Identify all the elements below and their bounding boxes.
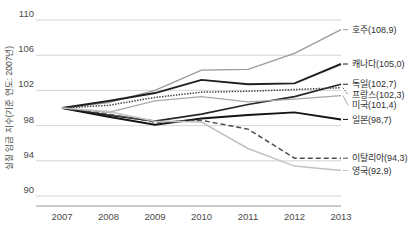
y-tick-label-94: 94 — [23, 149, 34, 160]
series-leader-프랑스 — [343, 88, 348, 95]
series-end-label-일본[interactable]: 일본(98,7) — [352, 115, 392, 125]
series-end-label-이탈리아[interactable]: 이탈리아(94,3) — [352, 153, 408, 163]
series-end-label-독일[interactable]: 독일(102,7) — [352, 79, 397, 89]
series-end-label-호주[interactable]: 호주(108,9) — [352, 25, 397, 35]
x-tick-label-2007: 2007 — [51, 211, 72, 222]
series-lines-group — [62, 30, 341, 171]
series-end-labels-group: 호주(108,9)캐나다(105,0)독일(102,7)프랑스(102,3)미국… — [343, 25, 408, 176]
series-end-label-영국[interactable]: 영국(92,9) — [352, 166, 392, 176]
y-axis-title: 실질 임금 지수(기준 연도: 2007년) — [4, 46, 14, 171]
y-tick-label-102: 102 — [18, 78, 34, 89]
x-tick-label-2009: 2009 — [144, 211, 165, 222]
real-wage-index-line-chart: 110106102989490 200720082009201020112012… — [0, 0, 412, 232]
y-axis-title-label: 실질 임금 지수(기준 연도: 2007년) — [4, 46, 14, 171]
y-tick-label-106: 106 — [18, 43, 34, 54]
x-tick-label-2010: 2010 — [191, 211, 212, 222]
chart-canvas: 110106102989490 200720082009201020112012… — [0, 0, 412, 232]
x-tick-label-2008: 2008 — [98, 211, 119, 222]
gridlines-group — [36, 20, 341, 196]
x-tick-label-2011: 2011 — [238, 211, 258, 222]
series-leader-미국 — [343, 96, 348, 106]
x-axis-tick-labels: 2007200820092010201120122013 — [51, 211, 351, 222]
y-tick-label-98: 98 — [23, 114, 34, 125]
series-end-label-프랑스[interactable]: 프랑스(102,3) — [352, 89, 405, 100]
y-tick-label-90: 90 — [23, 184, 34, 195]
x-tick-label-2012: 2012 — [284, 211, 305, 222]
y-axis-tick-labels: 110106102989490 — [18, 8, 34, 195]
x-tick-label-2013: 2013 — [330, 211, 351, 222]
series-end-label-미국[interactable]: 미국(101,4) — [352, 100, 397, 110]
y-tick-label-110: 110 — [19, 8, 34, 19]
series-line-미국[interactable] — [62, 96, 341, 113]
series-end-label-캐나다[interactable]: 캐나다(105,0) — [352, 59, 405, 69]
